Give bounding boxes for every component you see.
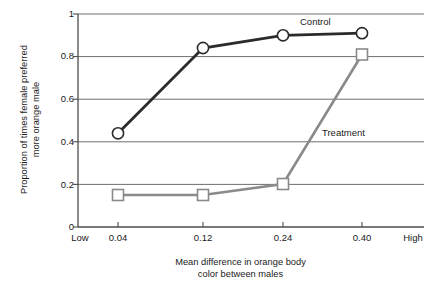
control-marker xyxy=(197,42,208,53)
x-axis-title: Mean difference in orange body color bet… xyxy=(78,257,403,280)
x-axis-title-line2: color between males xyxy=(78,269,403,281)
chart-figure: Proportion of times female preferred mor… xyxy=(0,0,435,292)
series-label-treatment: Treatment xyxy=(322,128,365,138)
x-tick-label-high: High xyxy=(403,233,423,243)
control-marker xyxy=(356,28,367,39)
x-axis-ticks xyxy=(118,222,362,227)
x-tick-label: 0.24 xyxy=(274,233,293,243)
control-line xyxy=(118,33,362,133)
treatment-marker xyxy=(357,49,368,60)
treatment-marker xyxy=(113,190,124,201)
series-control xyxy=(112,28,367,139)
x-tick-label: 0.12 xyxy=(194,233,213,243)
y-axis-ticks xyxy=(73,14,78,227)
series-treatment xyxy=(113,49,368,201)
treatment-marker xyxy=(278,179,289,190)
series-label-control: Control xyxy=(300,17,331,27)
control-marker xyxy=(112,128,123,139)
x-tick-label: 0.40 xyxy=(353,233,372,243)
x-axis-title-line1: Mean difference in orange body xyxy=(78,257,403,269)
treatment-line xyxy=(118,55,362,196)
plot-area xyxy=(0,0,435,292)
treatment-marker xyxy=(198,190,209,201)
x-tick-label-low: Low xyxy=(71,233,88,243)
x-tick-label: 0.04 xyxy=(109,233,128,243)
control-marker xyxy=(277,30,288,41)
